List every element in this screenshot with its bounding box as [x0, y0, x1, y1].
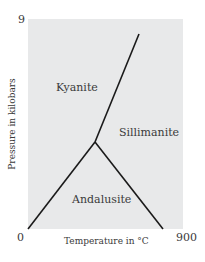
y-axis-title: Pressure in kilobars — [7, 78, 17, 169]
region-label-kyanite: Kyanite — [56, 81, 98, 94]
x-axis-title: Temperature in °C — [64, 236, 149, 246]
x-tick-900: 900 — [176, 231, 197, 244]
kyanite-andalusite-boundary — [28, 142, 95, 229]
region-label-sillimanite: Sillimanite — [119, 126, 179, 139]
andalusite-sillimanite-boundary — [95, 142, 163, 229]
x-tick-0: 0 — [17, 231, 24, 244]
y-tick-9: 9 — [18, 13, 25, 26]
region-label-andalusite: Andalusite — [72, 193, 131, 206]
